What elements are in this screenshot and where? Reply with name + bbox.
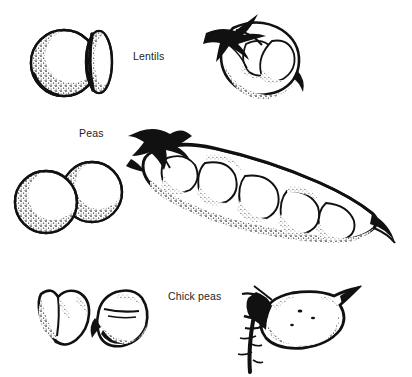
figure-label-peas: Peas — [79, 128, 104, 139]
pea-pod-drawing — [126, 129, 395, 243]
figure-label-lentils: Lentils — [133, 51, 164, 62]
chickpea-seed-drawing-right — [91, 290, 148, 346]
legume-illustrations — [0, 0, 412, 377]
lentil-seed-edge-drawing — [86, 31, 112, 93]
pea-seed-drawing-front — [15, 171, 77, 233]
chickpea-seed-drawing-left — [39, 291, 89, 346]
lentil-pod-drawing — [203, 14, 304, 99]
illustration-plate: Lentils Peas Chick peas — [0, 0, 412, 377]
chickpea-pod-drawing — [238, 285, 362, 372]
figure-label-chickpeas: Chick peas — [168, 291, 221, 302]
